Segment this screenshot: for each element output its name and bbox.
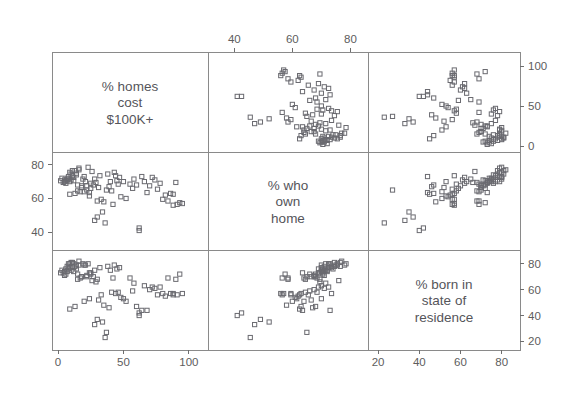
data-point bbox=[117, 266, 121, 270]
data-point bbox=[324, 122, 328, 126]
diagonal-label-line: % homes bbox=[102, 79, 159, 94]
data-point bbox=[102, 303, 106, 307]
data-point bbox=[337, 278, 341, 282]
data-point bbox=[131, 289, 135, 293]
data-point bbox=[328, 308, 332, 312]
data-point bbox=[477, 77, 481, 81]
data-point bbox=[308, 98, 312, 102]
data-point bbox=[407, 117, 411, 121]
data-point bbox=[483, 201, 487, 205]
data-point bbox=[124, 196, 128, 200]
data-point bbox=[306, 83, 310, 87]
data-point bbox=[390, 114, 394, 118]
data-point bbox=[324, 129, 328, 133]
data-point bbox=[119, 295, 123, 299]
scatter-panel-own-vs-born bbox=[382, 165, 508, 232]
data-point bbox=[403, 218, 407, 222]
data-point bbox=[282, 291, 286, 295]
data-point bbox=[319, 91, 323, 95]
data-point bbox=[444, 180, 448, 184]
data-point bbox=[452, 174, 456, 178]
data-point bbox=[417, 228, 421, 232]
data-point bbox=[483, 132, 487, 136]
top-axis-tick-label: 60 bbox=[286, 33, 299, 45]
data-point bbox=[311, 306, 315, 310]
data-point bbox=[403, 122, 407, 126]
scatter-panel-born-vs-homes bbox=[59, 259, 185, 340]
right-lower-axis-tick-label: 60 bbox=[528, 284, 541, 296]
diagonal-label-line: $100K+ bbox=[107, 112, 154, 127]
data-point bbox=[158, 285, 162, 289]
data-point bbox=[430, 113, 434, 117]
data-point bbox=[448, 78, 452, 82]
data-point bbox=[280, 293, 284, 297]
data-point bbox=[253, 322, 257, 326]
data-point bbox=[324, 98, 328, 102]
data-point bbox=[469, 98, 473, 102]
data-point bbox=[440, 196, 444, 200]
data-point bbox=[444, 125, 448, 129]
bottom-left-axis-tick-label: 0 bbox=[55, 356, 61, 368]
scatterplot-matrix-figure: 4060800501002040608040608005010020406080… bbox=[0, 0, 582, 403]
data-point bbox=[284, 303, 288, 307]
data-point bbox=[473, 169, 477, 173]
data-point bbox=[111, 276, 115, 280]
data-point bbox=[319, 297, 323, 301]
data-point bbox=[440, 190, 444, 194]
data-point bbox=[421, 226, 425, 230]
data-point bbox=[315, 107, 319, 111]
data-point bbox=[174, 277, 178, 281]
data-point bbox=[103, 335, 107, 339]
data-point bbox=[344, 126, 348, 130]
data-point bbox=[87, 297, 91, 301]
data-point bbox=[289, 293, 293, 297]
data-point bbox=[390, 188, 394, 192]
data-point bbox=[180, 291, 184, 295]
bottom-left-axis-tick-label: 100 bbox=[179, 356, 198, 368]
data-point bbox=[432, 134, 436, 138]
data-point bbox=[289, 291, 293, 295]
data-point bbox=[239, 94, 243, 98]
data-point bbox=[485, 190, 489, 194]
data-point bbox=[163, 193, 167, 197]
data-point bbox=[329, 291, 333, 295]
right-lower-axis-tick-label: 40 bbox=[528, 310, 541, 322]
data-point bbox=[450, 118, 454, 122]
data-point bbox=[489, 122, 493, 126]
data-point bbox=[329, 118, 333, 122]
scatter-panel-own-vs-homes bbox=[59, 165, 185, 232]
data-point bbox=[128, 182, 132, 186]
data-point bbox=[267, 117, 271, 121]
data-point bbox=[95, 317, 99, 321]
right-upper-axis-tick-label: 0 bbox=[528, 140, 534, 152]
data-point bbox=[98, 174, 102, 178]
data-point bbox=[111, 202, 115, 206]
data-point bbox=[454, 182, 458, 186]
scatter-panel-homes-vs-born bbox=[382, 68, 508, 147]
right-lower-axis-tick-label: 20 bbox=[528, 335, 541, 347]
data-point bbox=[128, 276, 132, 280]
diagonal-label-line: residence bbox=[415, 310, 474, 325]
data-point bbox=[434, 200, 438, 204]
data-point bbox=[450, 187, 454, 191]
data-point bbox=[316, 285, 320, 289]
data-point bbox=[100, 210, 104, 214]
data-point bbox=[305, 330, 309, 334]
right-upper-axis-tick-label: 100 bbox=[528, 60, 547, 72]
data-point bbox=[280, 110, 284, 114]
data-point bbox=[258, 120, 262, 124]
data-point bbox=[168, 291, 172, 295]
data-point bbox=[132, 177, 136, 181]
data-point bbox=[174, 180, 178, 184]
data-point bbox=[96, 298, 100, 302]
data-point bbox=[132, 281, 136, 285]
diagonal-label-own: % whoownhome bbox=[268, 178, 309, 226]
diagonal-label-homes: % homescost$100K+ bbox=[102, 79, 159, 127]
data-point bbox=[465, 91, 469, 95]
data-point bbox=[411, 120, 415, 124]
data-point bbox=[279, 291, 283, 295]
data-point bbox=[98, 266, 102, 270]
data-point bbox=[108, 180, 112, 184]
data-point bbox=[309, 298, 313, 302]
data-point bbox=[134, 304, 138, 308]
